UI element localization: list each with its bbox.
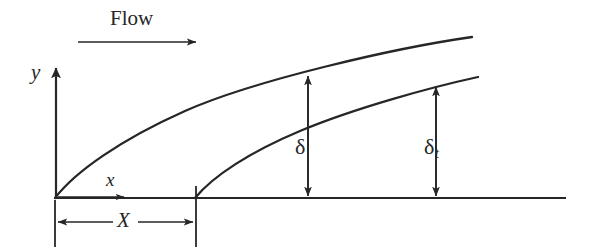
delta-t-subscript: t [435,146,439,161]
x-axis-label: x [106,170,114,189]
delta-t-base: δ [424,134,434,159]
distance-x-label: X [117,210,130,231]
delta-label: δ [295,136,305,158]
diagram-canvas [0,0,594,252]
y-axis-label: y [31,62,40,83]
delta-t-label: δt [424,136,439,161]
velocity-boundary-layer-curve [55,37,472,198]
flow-label: Flow [110,8,153,29]
boundary-layer-diagram: Flow y x X δ δt [0,0,594,252]
